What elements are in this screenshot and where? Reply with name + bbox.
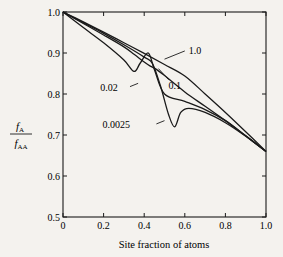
y-tick-label: 1.0 bbox=[48, 7, 61, 18]
y-axis-ticks: 0.50.60.70.80.91.0 bbox=[48, 7, 267, 223]
curve-0-02 bbox=[63, 12, 266, 151]
y-tick-label: 0.7 bbox=[48, 130, 61, 141]
x-tick-label: 0 bbox=[61, 220, 66, 231]
y-tick-label: 0.9 bbox=[48, 48, 61, 59]
chart: 00.20.40.60.81.0 0.50.60.70.80.91.0 1.00… bbox=[0, 0, 283, 257]
x-tick-label: 0.8 bbox=[219, 220, 232, 231]
svg-text:fA: fA bbox=[16, 120, 24, 134]
y-tick-label: 0.8 bbox=[48, 89, 61, 100]
curve-label: 0.1 bbox=[169, 80, 182, 91]
curve-0-1 bbox=[63, 12, 266, 151]
curve-label: 1.0 bbox=[189, 45, 202, 56]
curve-label: 0.02 bbox=[100, 82, 118, 93]
x-tick-label: 0.2 bbox=[97, 220, 110, 231]
data-curves bbox=[63, 12, 266, 151]
y-tick-label: 0.6 bbox=[48, 171, 61, 182]
x-axis-label: Site fraction of atoms bbox=[119, 239, 210, 250]
curve-0-0025 bbox=[63, 12, 266, 151]
x-tick-label: 0.4 bbox=[138, 220, 151, 231]
x-tick-label: 1.0 bbox=[260, 220, 273, 231]
y-tick-label: 0.5 bbox=[48, 212, 61, 223]
curve-label: 0.0025 bbox=[102, 119, 130, 130]
y-axis-label: fA fAA bbox=[10, 120, 32, 151]
x-tick-label: 0.6 bbox=[179, 220, 192, 231]
curve-1-0 bbox=[63, 12, 266, 151]
svg-text:fAA: fAA bbox=[14, 137, 27, 151]
x-axis-ticks: 00.20.40.60.81.0 bbox=[61, 12, 273, 231]
plot-frame bbox=[63, 12, 266, 217]
